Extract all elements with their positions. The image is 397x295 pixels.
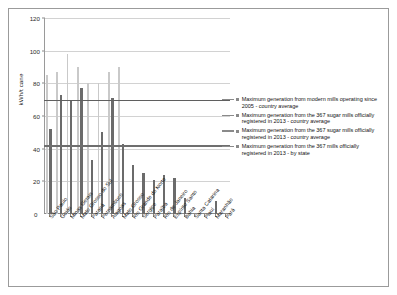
category-group: [116, 18, 126, 214]
y-tick-label: 40: [33, 145, 40, 152]
legend-swatch: [236, 145, 239, 148]
legend-swatch: [236, 130, 239, 133]
category-group: [178, 18, 188, 214]
bar: [111, 98, 113, 214]
bar: [80, 88, 82, 214]
legend-item: Maximum generation from modern mills ope…: [236, 96, 388, 109]
category-group: [75, 18, 85, 214]
y-tick-label: 100: [30, 47, 40, 54]
legend-label: Maximum generation from the 367 sugar mi…: [242, 112, 380, 125]
bar: [70, 100, 72, 214]
category-group: [220, 18, 230, 214]
legend-label: Maximum generation from the 367 mills of…: [242, 143, 380, 156]
legend-connector-line: [222, 115, 234, 116]
reference-line: [44, 100, 230, 102]
legend-connector-line: [222, 146, 234, 147]
legend-item: Maximum generation from the 367 mills of…: [236, 143, 388, 156]
legend-item: Maximum generation from the 367 sugar mi…: [236, 127, 388, 140]
legend-swatch: [236, 114, 239, 117]
plot-area: [44, 18, 230, 214]
chart-legend: Maximum generation from modern mills ope…: [236, 96, 388, 159]
legend-swatch: [236, 98, 239, 101]
legend-label: Maximum generation from the 367 sugar mi…: [242, 127, 380, 140]
legend-label: Maximum generation from modern mills ope…: [242, 96, 380, 109]
legend-item: Maximum generation from the 367 sugar mi…: [236, 112, 388, 125]
y-axis-zero-label: 0: [34, 211, 37, 218]
category-group: [85, 18, 95, 214]
bar: [77, 67, 79, 214]
y-tick-label: 20: [33, 178, 40, 185]
legend-connector-line: [222, 99, 234, 100]
y-tick-label: 60: [33, 113, 40, 120]
category-group: [44, 18, 54, 214]
bar: [108, 72, 110, 214]
legend-connector-line: [222, 130, 234, 131]
bar: [60, 95, 62, 214]
category-group: [54, 18, 64, 214]
x-axis-labels: São PauloGoiásMinas GeraisMato Grosso do…: [44, 216, 244, 286]
category-group: [65, 18, 75, 214]
bar: [49, 129, 51, 214]
category-group: [137, 18, 147, 214]
plot-inner: [44, 18, 230, 214]
chart-container: kWh/t cane 20406080100120 0 São PauloGoi…: [0, 0, 397, 295]
category-group: [189, 18, 199, 214]
reference-line: [44, 145, 230, 147]
y-tick-label: 120: [30, 15, 40, 22]
category-group: [209, 18, 219, 214]
bar: [67, 54, 69, 214]
category-group: [199, 18, 209, 214]
y-axis-ticks: 20406080100120: [22, 18, 42, 214]
category-group: [127, 18, 137, 214]
bar: [56, 72, 58, 214]
category-group: [168, 18, 178, 214]
y-tick-label: 80: [33, 80, 40, 87]
